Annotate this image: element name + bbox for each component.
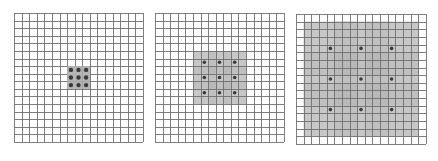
kernel-dot <box>233 91 237 95</box>
grid-diagram <box>14 13 144 143</box>
kernel-dot <box>69 75 73 79</box>
kernel-dot <box>359 77 363 81</box>
kernel-dot <box>329 77 333 81</box>
receptive-field-panel-dilation-2 <box>155 13 285 143</box>
kernel-dot <box>218 61 222 65</box>
kernel-sample-dots <box>67 66 90 89</box>
kernel-dot <box>84 75 88 79</box>
kernel-dot <box>329 108 333 112</box>
kernel-dot <box>203 76 207 80</box>
kernel-dot <box>359 47 363 51</box>
kernel-dot <box>76 68 80 72</box>
grid-diagram <box>155 13 285 143</box>
kernel-dot <box>76 75 80 79</box>
kernel-dot <box>233 76 237 80</box>
kernel-dot <box>390 47 394 51</box>
kernel-dot <box>69 83 73 87</box>
kernel-dot <box>84 83 88 87</box>
kernel-dot <box>203 61 207 65</box>
kernel-dot <box>84 68 88 72</box>
kernel-dot <box>218 91 222 95</box>
receptive-field-panel-dilation-4 <box>296 14 427 145</box>
kernel-dot <box>390 77 394 81</box>
kernel-dot <box>69 68 73 72</box>
kernel-dot <box>76 83 80 87</box>
receptive-field-panel-dilation-1 <box>14 13 144 143</box>
kernel-dot <box>203 91 207 95</box>
grid-diagram <box>296 14 427 145</box>
kernel-dot <box>233 61 237 65</box>
kernel-dot <box>359 108 363 112</box>
kernel-dot <box>218 76 222 80</box>
kernel-dot <box>390 108 394 112</box>
kernel-dot <box>329 47 333 51</box>
